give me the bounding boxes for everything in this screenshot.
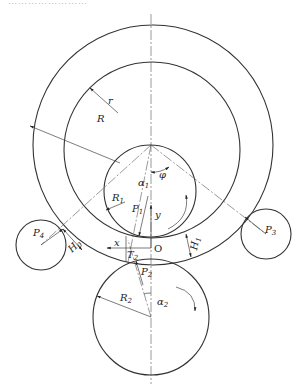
line-apex-to-P3 — [151, 145, 266, 234]
label-O: O — [154, 243, 162, 254]
R2-rotation-arrow — [176, 287, 195, 311]
P3-force-arrow — [245, 217, 266, 234]
label-T2: T2 — [127, 249, 139, 262]
label-x: x — [114, 237, 120, 248]
R1-rotation-arrow — [168, 195, 187, 229]
label-P3: P3 — [264, 224, 277, 237]
label-R1: R1 — [111, 192, 124, 205]
label-R: R — [96, 113, 105, 124]
label-alpha1: α1 — [138, 177, 149, 190]
label-H1: H1 — [188, 236, 203, 252]
label-H0: H0 — [65, 237, 85, 257]
P4-force-arrow — [41, 229, 63, 245]
drive-roll-R1-circle — [104, 145, 196, 237]
label-phi: φ — [159, 169, 166, 180]
label-P4: P4 — [32, 227, 44, 240]
r-dimension-line — [90, 88, 118, 113]
label-P1: P1 — [131, 203, 143, 216]
label-alpha2: α2 — [157, 296, 169, 309]
label-y: y — [154, 209, 161, 220]
alpha2-angle-arc — [144, 293, 151, 294]
P1-force-arrow — [139, 196, 148, 236]
R-dimension-line — [30, 126, 120, 163]
ring-rolling-diagram: r R φ α1 R1 P1 y x O H0 H1 P4 P3 T2 P2 R… — [0, 0, 305, 391]
label-R2: R2 — [119, 292, 133, 305]
label-r: r — [108, 95, 114, 106]
